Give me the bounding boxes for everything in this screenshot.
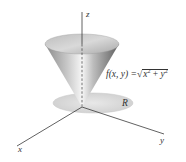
exp-y: 2 [165, 68, 168, 74]
region-r-disk [53, 93, 133, 113]
cone-diagram [0, 0, 186, 162]
formula-radicand: x2 + y2 [142, 69, 168, 80]
y-axis-label: y [160, 136, 164, 145]
x-axis-label: x [18, 145, 22, 154]
plus-operator: + [150, 69, 160, 79]
y-axis [82, 107, 164, 134]
function-formula: f(x, y) =√x2 + y2 [106, 69, 168, 80]
region-label: R [122, 99, 128, 109]
x-axis [17, 107, 82, 146]
z-axis-label: z [86, 10, 90, 19]
formula-lhs: f(x, y) = [106, 69, 137, 79]
